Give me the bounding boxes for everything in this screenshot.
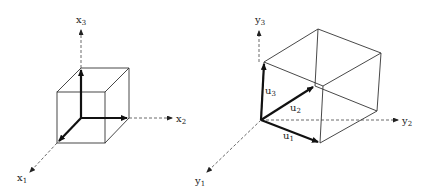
u3-label: u3 [265,85,276,98]
u2-label: u2 [290,102,301,115]
y3-label: y3 [254,14,265,27]
figure: x3 x2 x1 y3 y2 y1 u3 u2 [0,0,426,196]
right-panel: y3 y2 y1 u3 u2 u1 [194,14,412,188]
x1-axis [30,143,57,172]
y2-label: y2 [401,115,412,128]
x2-label: x2 [176,113,186,126]
left-panel: x3 x2 x1 [17,14,186,185]
x1-label: x1 [17,172,27,185]
e1-vector [59,118,81,141]
u3-vector [261,64,264,120]
x3-label: x3 [76,14,86,27]
y1-label: y1 [194,175,205,188]
y1-axis [207,120,261,172]
linear-transformation-diagram: x3 x2 x1 y3 y2 y1 u3 u2 [0,0,426,196]
